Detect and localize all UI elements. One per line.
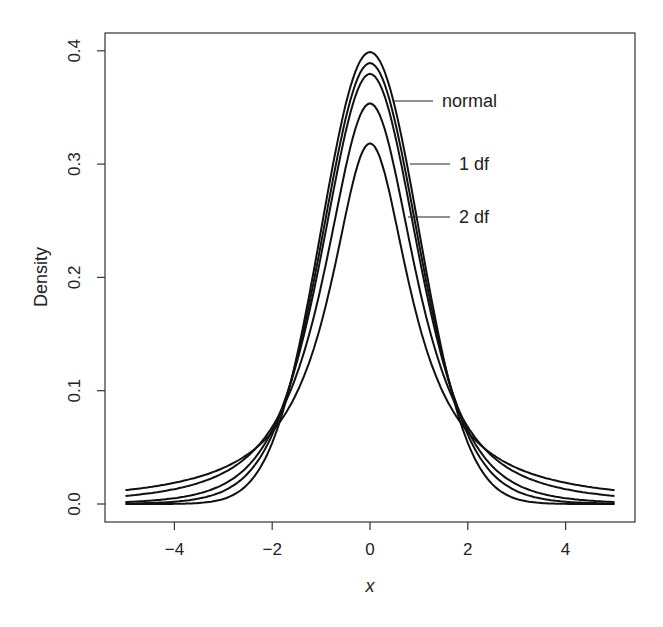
x-axis: −4−2024 (165, 522, 571, 559)
y-tick-label: 0.2 (65, 266, 84, 290)
y-tick-label: 0.0 (65, 492, 84, 516)
y-tick-label: 0.1 (65, 379, 84, 403)
x-tick-label: 2 (463, 540, 472, 559)
curve-2-df (126, 103, 615, 496)
x-tick-label: 4 (561, 540, 570, 559)
annotation-1-df: 1 df (459, 154, 490, 174)
density-curves (126, 52, 615, 504)
x-tick-label: 0 (365, 540, 374, 559)
x-axis-label: x (365, 576, 376, 596)
curve-1-df (126, 143, 615, 490)
x-tick-label: −4 (165, 540, 184, 559)
curve-normal (126, 52, 615, 504)
curve-t-10-df (126, 63, 615, 504)
y-axis-label: Density (31, 247, 51, 307)
x-tick-label: −2 (263, 540, 282, 559)
y-axis: 0.00.10.20.30.4 (65, 39, 105, 516)
curve-t-5-df (126, 74, 615, 502)
y-tick-label: 0.3 (65, 152, 84, 176)
y-tick-label: 0.4 (65, 39, 84, 63)
density-chart: 0.00.10.20.30.4 −4−2024 normal1 df2 df D… (0, 0, 663, 627)
plot-frame (105, 33, 635, 522)
annotation-2-df: 2 df (459, 207, 490, 227)
annotation-normal: normal (442, 91, 497, 111)
